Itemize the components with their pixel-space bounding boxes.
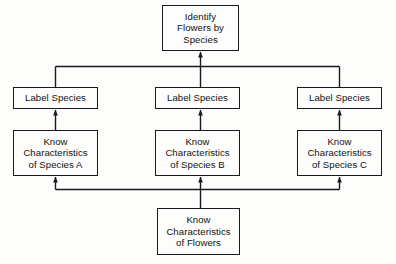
node-know-characteristics-species-a-label: Know Characteristics of Species A	[21, 136, 89, 171]
node-know-characteristics-of-flowers-label: Know Characteristics of Flowers	[164, 214, 232, 249]
node-know-characteristics-species-a: Know Characteristics of Species A	[13, 130, 98, 176]
node-know-characteristics-species-c-label: Know Characteristics of Species C	[305, 136, 373, 171]
node-label-species-a: Label Species	[13, 87, 98, 109]
node-know-characteristics-species-b-label: Know Characteristics of Species B	[163, 136, 231, 171]
node-identify-flowers-by-species: Identify Flowers by Species	[162, 5, 239, 51]
node-goal-label: Identify Flowers by Species	[175, 11, 226, 46]
node-know-characteristics-species-c: Know Characteristics of Species C	[297, 130, 382, 176]
node-know-characteristics-species-b: Know Characteristics of Species B	[155, 130, 240, 176]
node-know-characteristics-of-flowers: Know Characteristics of Flowers	[157, 208, 240, 255]
node-label-species-a-label: Label Species	[23, 92, 88, 104]
node-label-species-c: Label Species	[297, 87, 382, 109]
node-label-species-c-label: Label Species	[307, 92, 372, 104]
diagram-canvas: Identify Flowers by Species Label Specie…	[0, 0, 396, 264]
node-label-species-b-label: Label Species	[165, 92, 230, 104]
node-label-species-b: Label Species	[155, 87, 240, 109]
